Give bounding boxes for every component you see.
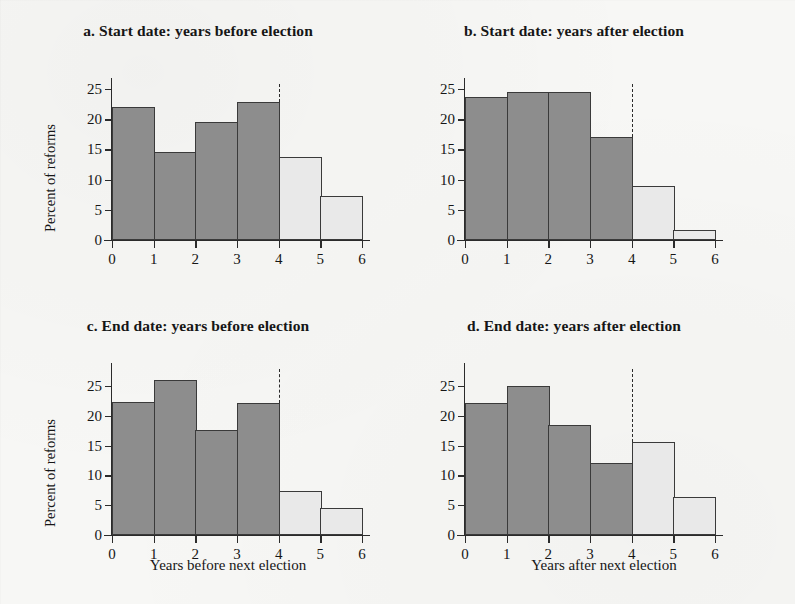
bar-2-3[interactable] — [548, 92, 591, 240]
panel-d: d. End date: years after election Years … — [398, 317, 750, 599]
x-tick-label: 3 — [217, 252, 257, 267]
panel-c-plot: 05101520250123456 — [22, 317, 374, 599]
x-tick-label: 2 — [528, 252, 568, 267]
bar-4-5[interactable] — [632, 442, 675, 535]
y-tick — [458, 475, 465, 476]
bar-2-3[interactable] — [548, 425, 591, 535]
y-tick — [105, 149, 112, 150]
x-tick-label: 1 — [134, 547, 174, 562]
x-tick-label: 0 — [92, 252, 132, 267]
election-cutoff-line — [279, 84, 280, 102]
x-tick — [279, 536, 280, 543]
x-tick — [590, 536, 591, 543]
bar-2-3[interactable] — [195, 430, 238, 535]
bar-1-2[interactable] — [154, 152, 197, 240]
x-tick — [320, 241, 321, 248]
x-tick — [632, 241, 633, 248]
y-tick — [105, 505, 112, 506]
y-tick-label: 15 — [417, 142, 455, 157]
y-tick-label: 10 — [417, 173, 455, 188]
bar-1-2[interactable] — [154, 380, 197, 535]
y-tick-label: 0 — [64, 528, 102, 543]
y-tick-label: 25 — [64, 379, 102, 394]
y-tick-label: 25 — [417, 379, 455, 394]
x-tick — [112, 536, 113, 543]
x-tick-label: 4 — [259, 547, 299, 562]
y-tick-label: 20 — [64, 409, 102, 424]
x-tick-label: 5 — [300, 252, 340, 267]
x-tick-label: 4 — [612, 252, 652, 267]
bar-0-1[interactable] — [112, 402, 155, 535]
y-tick — [105, 119, 112, 120]
bar-3-4[interactable] — [590, 137, 633, 240]
x-tick — [154, 536, 155, 543]
bar-4-5[interactable] — [279, 491, 322, 535]
bar-3-4[interactable] — [237, 102, 280, 240]
x-tick — [507, 241, 508, 248]
election-cutoff-line — [632, 369, 633, 442]
x-tick — [632, 536, 633, 543]
x-tick-label: 4 — [612, 547, 652, 562]
x-tick — [154, 241, 155, 248]
x-tick — [673, 536, 674, 543]
x-tick — [673, 241, 674, 248]
x-tick — [465, 536, 466, 543]
bar-2-3[interactable] — [195, 122, 238, 240]
x-tick — [715, 241, 716, 248]
bar-3-4[interactable] — [237, 403, 280, 535]
y-axis-line — [464, 78, 465, 241]
x-tick-label: 5 — [653, 252, 693, 267]
x-tick-label: 1 — [134, 252, 174, 267]
bar-3-4[interactable] — [590, 463, 633, 535]
y-tick — [458, 416, 465, 417]
bar-0-1[interactable] — [112, 107, 155, 240]
x-tick-label: 4 — [259, 252, 299, 267]
y-tick-label: 15 — [64, 142, 102, 157]
bar-4-5[interactable] — [632, 186, 675, 240]
x-tick — [237, 536, 238, 543]
y-tick — [105, 89, 112, 90]
x-tick-label: 2 — [175, 252, 215, 267]
bar-4-5[interactable] — [279, 157, 322, 240]
bar-0-1[interactable] — [465, 97, 508, 240]
x-tick — [362, 536, 363, 543]
y-tick-label: 10 — [417, 468, 455, 483]
y-tick-label: 25 — [64, 82, 102, 97]
panel-b: b. Start date: years after election 0510… — [398, 22, 750, 294]
bar-1-2[interactable] — [507, 386, 550, 535]
x-tick-label: 0 — [445, 252, 485, 267]
y-tick-label: 5 — [417, 498, 455, 513]
y-tick — [458, 119, 465, 120]
bar-5-6[interactable] — [673, 497, 716, 535]
panel-d-plot: 05101520250123456 — [398, 317, 750, 599]
y-tick — [458, 149, 465, 150]
x-tick — [237, 241, 238, 248]
x-tick-label: 6 — [342, 547, 382, 562]
x-tick-label: 0 — [92, 547, 132, 562]
y-tick-label: 15 — [417, 439, 455, 454]
y-tick-label: 5 — [417, 203, 455, 218]
y-axis-line — [111, 78, 112, 241]
x-tick — [715, 536, 716, 543]
x-tick-label: 0 — [445, 547, 485, 562]
bar-5-6[interactable] — [320, 508, 363, 535]
y-tick — [105, 240, 112, 241]
bar-0-1[interactable] — [465, 403, 508, 535]
y-tick-label: 20 — [417, 409, 455, 424]
x-tick-label: 6 — [342, 252, 382, 267]
y-tick-label: 20 — [64, 112, 102, 127]
y-tick-label: 15 — [64, 439, 102, 454]
x-tick-label: 5 — [653, 547, 693, 562]
x-tick-label: 3 — [570, 547, 610, 562]
y-tick — [458, 446, 465, 447]
y-axis-line — [111, 363, 112, 536]
bar-5-6[interactable] — [673, 230, 716, 240]
x-tick — [548, 536, 549, 543]
y-tick — [105, 416, 112, 417]
x-tick — [548, 241, 549, 248]
y-tick — [105, 535, 112, 536]
bar-5-6[interactable] — [320, 196, 363, 240]
bar-1-2[interactable] — [507, 92, 550, 240]
x-tick-label: 3 — [217, 547, 257, 562]
y-tick — [105, 386, 112, 387]
